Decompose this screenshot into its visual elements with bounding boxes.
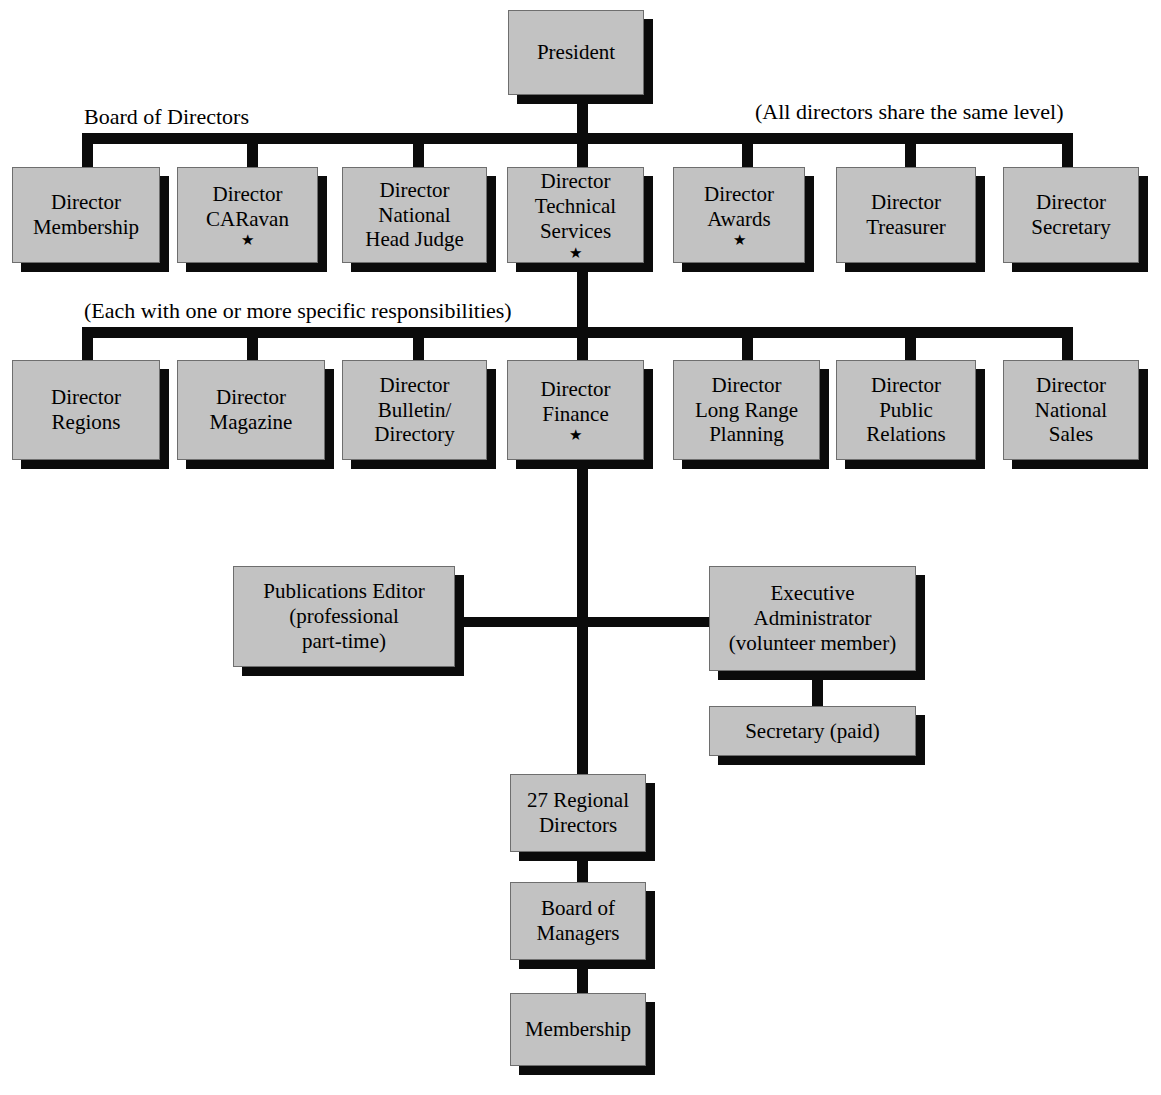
node-line: Board of: [541, 896, 615, 921]
node-director-bulletin-directory[interactable]: Director Bulletin/ Directory: [342, 360, 487, 460]
node-president[interactable]: President: [508, 10, 644, 95]
node-director-regions[interactable]: Director Regions: [12, 360, 160, 460]
node-line: Head Judge: [365, 227, 464, 252]
node-director-long-range-planning[interactable]: Director Long Range Planning: [673, 360, 820, 460]
connector-row1-drop-1: [82, 133, 93, 171]
connector-row2-drop-7: [1062, 327, 1073, 363]
node-line: Director: [380, 373, 450, 398]
org-chart: Board of Directors (All directors share …: [0, 0, 1161, 1095]
node-line: Sales: [1049, 422, 1093, 447]
connector-technical-services-stem: [577, 263, 588, 331]
node-director-treasurer[interactable]: Director Treasurer: [836, 167, 976, 263]
node-director-finance[interactable]: Director Finance ★: [507, 360, 644, 460]
node-line: Planning: [709, 422, 784, 447]
node-secretary-paid[interactable]: Secretary (paid): [709, 706, 916, 756]
node-director-public-relations[interactable]: Director Public Relations: [836, 360, 976, 460]
node-line: Director: [704, 182, 774, 207]
node-line: Director: [216, 385, 286, 410]
connector-row1-drop-3: [413, 133, 424, 171]
node-line: Director: [213, 182, 283, 207]
star-marker: ★: [241, 233, 254, 248]
node-line: Director: [871, 190, 941, 215]
node-line: Secretary: [1031, 215, 1110, 240]
connector-managers-to-membership: [577, 957, 588, 995]
connector-row2-drop-6: [905, 327, 916, 363]
node-line: Awards: [707, 207, 770, 232]
node-line: (volunteer member): [729, 631, 896, 656]
node-line: President: [537, 40, 615, 65]
node-line: Director: [1036, 373, 1106, 398]
node-line: Relations: [866, 422, 945, 447]
connector-exec-admin-to-secretary: [812, 672, 823, 707]
node-line: CARavan: [206, 207, 289, 232]
node-director-membership[interactable]: Director Membership: [12, 167, 160, 263]
node-line: Director: [51, 385, 121, 410]
connector-row1-drop-4: [577, 133, 588, 171]
node-line: Treasurer: [866, 215, 946, 240]
node-line: Director: [712, 373, 782, 398]
node-line: Membership: [33, 215, 139, 240]
connector-row2-drop-5: [742, 327, 753, 363]
node-line: Regions: [52, 410, 121, 435]
connector-row2-drop-1: [82, 327, 93, 363]
node-line: Secretary (paid): [745, 719, 880, 744]
connector-row1-drop-6: [905, 133, 916, 171]
node-line: Public: [879, 398, 933, 423]
node-line: Membership: [525, 1017, 631, 1042]
node-publications-editor[interactable]: Publications Editor (professional part-t…: [233, 566, 455, 667]
node-director-national-sales[interactable]: Director National Sales: [1003, 360, 1139, 460]
node-regional-directors[interactable]: 27 Regional Directors: [510, 774, 646, 852]
node-executive-administrator[interactable]: Executive Administrator (volunteer membe…: [709, 566, 916, 671]
node-line: Director: [871, 373, 941, 398]
node-line: Directors: [539, 813, 617, 838]
caption-all-directors-same-level: (All directors share the same level): [755, 100, 1063, 124]
node-line: Administrator: [754, 606, 872, 631]
node-membership[interactable]: Membership: [510, 993, 646, 1066]
node-board-of-managers[interactable]: Board of Managers: [510, 882, 646, 960]
node-line: Managers: [537, 921, 620, 946]
node-line: National: [1035, 398, 1107, 423]
connector-president-stem: [577, 96, 588, 138]
node-line: Publications Editor: [263, 579, 425, 604]
node-line: Director: [380, 178, 450, 203]
connector-row2-drop-3: [413, 327, 424, 363]
connector-row1-drop-2: [247, 133, 258, 171]
node-line: Director: [51, 190, 121, 215]
node-line: Long Range: [695, 398, 798, 423]
node-line: Finance: [542, 402, 608, 427]
node-director-secretary[interactable]: Director Secretary: [1003, 167, 1139, 263]
node-director-caravan[interactable]: Director CARavan ★: [177, 167, 318, 263]
caption-board-of-directors: Board of Directors: [84, 105, 249, 129]
node-line: Director: [541, 377, 611, 402]
node-line: part-time): [302, 629, 386, 654]
star-marker: ★: [569, 246, 582, 261]
node-line: Executive: [771, 581, 855, 606]
node-director-magazine[interactable]: Director Magazine: [177, 360, 325, 460]
connector-row2-drop-4: [577, 327, 588, 363]
star-marker: ★: [733, 233, 746, 248]
node-line: Magazine: [210, 410, 293, 435]
node-line: 27 Regional: [527, 788, 629, 813]
node-line: Bulletin/: [378, 398, 452, 423]
connector-staff-crossbar: [455, 617, 712, 627]
connector-row2-drop-2: [247, 327, 258, 363]
node-director-technical-services[interactable]: Director Technical Services ★: [507, 167, 644, 263]
node-line: National: [378, 203, 450, 228]
node-line: Director: [1036, 190, 1106, 215]
caption-each-with-responsibilities: (Each with one or more specific responsi…: [84, 299, 512, 323]
node-line: Directory: [374, 422, 454, 447]
connector-row1-drop-7: [1062, 133, 1073, 171]
node-line: (professional: [289, 604, 399, 629]
node-director-awards[interactable]: Director Awards ★: [673, 167, 805, 263]
node-line: Director: [541, 169, 611, 194]
node-line: Services: [540, 219, 611, 244]
connector-row1-drop-5: [742, 133, 753, 171]
node-line: Technical: [535, 194, 616, 219]
node-director-national-head-judge[interactable]: Director National Head Judge: [342, 167, 487, 263]
star-marker: ★: [569, 428, 582, 443]
